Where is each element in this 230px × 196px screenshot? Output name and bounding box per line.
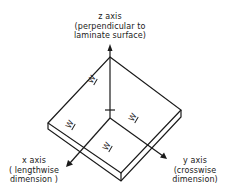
y-axis-description-2: dimension)	[164, 175, 226, 185]
z-axis-description-2: laminate surface)	[60, 31, 160, 41]
y-axis-label: y axis (crosswise dimension)	[164, 156, 226, 185]
w-label-right: W	[127, 112, 139, 123]
x-axis-label: x axis ( lengthwise dimension )	[2, 156, 66, 185]
w-label-left: W	[64, 119, 76, 130]
plate-top-face	[48, 57, 181, 173]
x-axis-name: x axis	[2, 156, 66, 166]
w-label-bottom: W	[101, 141, 113, 152]
y-axis-description-1: (crosswise	[164, 166, 226, 176]
w-labels: W W W W	[64, 74, 139, 152]
x-axis-description-2: dimension )	[2, 175, 66, 185]
z-axis-description-1: (perpendicular to	[60, 22, 160, 32]
z-axis-arrowhead	[108, 44, 113, 51]
y-axis-name: y axis	[164, 156, 226, 166]
z-axis-label: z axis (perpendicular to laminate surfac…	[60, 12, 160, 41]
laminate-axes-diagram: W W W W z axis (perpendicular to laminat…	[0, 0, 230, 196]
x-axis-description-1: ( lengthwise	[2, 166, 66, 176]
w-label-upper-left: W	[86, 74, 98, 85]
z-axis-name: z axis	[60, 12, 160, 22]
